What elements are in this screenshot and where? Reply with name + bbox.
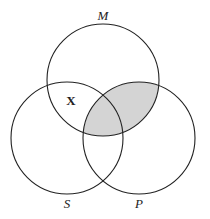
label-s: S bbox=[64, 196, 71, 211]
venn-diagram: M S P X bbox=[0, 0, 210, 219]
label-p: P bbox=[134, 196, 143, 211]
shaded-region-m-and-p bbox=[47, 24, 159, 136]
x-mark: X bbox=[66, 93, 76, 108]
label-m: M bbox=[97, 8, 110, 23]
